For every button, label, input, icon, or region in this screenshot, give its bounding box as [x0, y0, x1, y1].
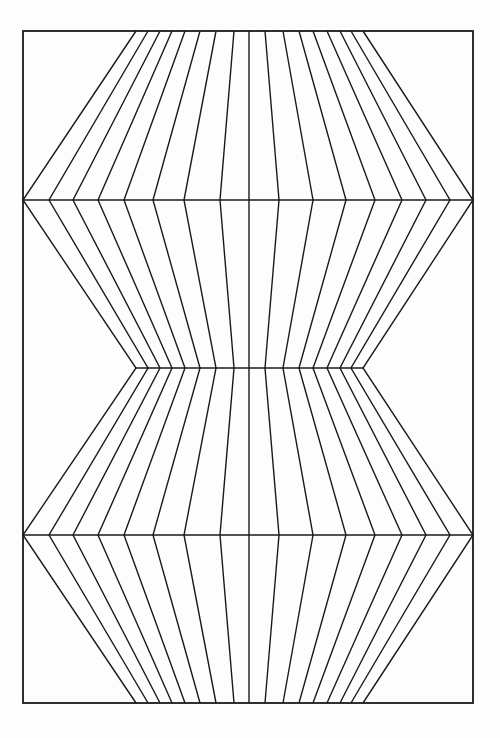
outer-frame — [23, 31, 473, 703]
zigzag-line — [351, 31, 450, 703]
zigzag-line — [265, 31, 279, 703]
zigzag-line — [363, 31, 473, 703]
zigzag-line — [23, 31, 136, 703]
zigzag-line — [124, 31, 185, 703]
op-art-drawing — [0, 0, 500, 738]
zigzag-line — [340, 31, 426, 703]
zigzag-line — [220, 31, 234, 703]
horizontal-dividers — [23, 200, 473, 535]
zigzag-line — [313, 31, 375, 703]
zigzag-lines — [23, 31, 473, 703]
zigzag-line — [299, 31, 346, 703]
zigzag-line — [49, 31, 148, 703]
zigzag-line — [283, 31, 313, 703]
